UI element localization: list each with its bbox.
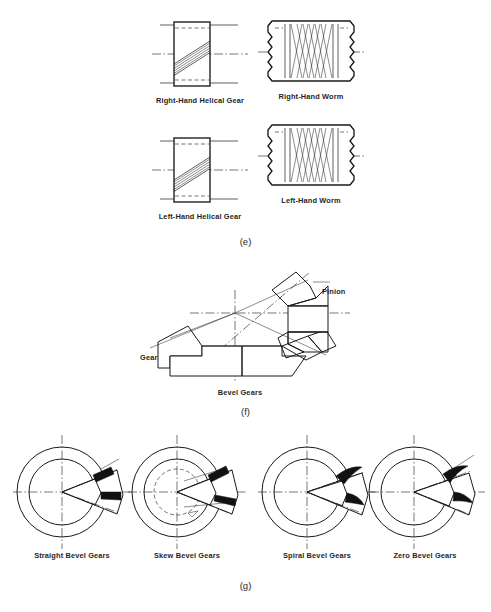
figure-left-hand-worm: Left-Hand Worm <box>258 116 364 190</box>
helical-gear-left-icon <box>150 128 250 208</box>
figure-skew-bevel-gears: Skew Bevel Gears <box>128 433 246 545</box>
figure-right-hand-worm: Right-Hand Worm <box>258 12 364 86</box>
caption-zero-bevel-gears: Zero Bevel Gears <box>362 551 488 560</box>
caption-bevel-gears: Bevel Gears <box>185 388 295 397</box>
figure-spiral-bevel-gears: Spiral Bevel Gears <box>258 433 376 545</box>
skew-bevel-gear-icon <box>128 433 246 545</box>
bevel-gear-assembly-icon <box>130 260 380 385</box>
caption-left-hand-helical-gear: Left-Hand Helical Gear <box>134 212 266 221</box>
zero-bevel-gear-icon <box>370 433 488 545</box>
figure-label-e: (e) <box>0 236 491 247</box>
worm-left-icon <box>258 116 364 190</box>
caption-pinion: Pinion <box>322 287 345 296</box>
gear-illustration-page: Right-Hand Helical Gear <box>0 0 491 612</box>
caption-gear: Gear <box>140 353 157 362</box>
panel-bevel-gear-section: Pinion Gear Bevel Gears (f) <box>0 255 491 425</box>
figure-label-g: (g) <box>0 580 491 591</box>
straight-bevel-gear-icon <box>13 433 131 545</box>
caption-right-hand-worm: Right-Hand Worm <box>248 92 374 101</box>
figure-bevel-gears-assembly: Pinion Gear Bevel Gears <box>130 260 380 385</box>
panel-bevel-tooth-forms: Straight Bevel Gears Skew Bevel Gears <box>0 425 491 612</box>
caption-left-hand-worm: Left-Hand Worm <box>248 196 374 205</box>
figure-right-hand-helical-gear: Right-Hand Helical Gear <box>150 12 250 92</box>
helical-gear-right-icon <box>150 12 250 92</box>
caption-right-hand-helical-gear: Right-Hand Helical Gear <box>134 96 266 105</box>
figure-left-hand-helical-gear: Left-Hand Helical Gear <box>150 128 250 208</box>
worm-right-icon <box>258 12 364 86</box>
caption-skew-bevel-gears: Skew Bevel Gears <box>125 551 249 560</box>
figure-straight-bevel-gears: Straight Bevel Gears <box>13 433 131 545</box>
caption-straight-bevel-gears: Straight Bevel Gears <box>7 551 137 560</box>
spiral-bevel-gear-icon <box>258 433 376 545</box>
figure-zero-bevel-gears: Zero Bevel Gears <box>370 433 488 545</box>
panel-helical-and-worm: Right-Hand Helical Gear <box>0 0 491 255</box>
figure-label-f: (f) <box>0 406 491 417</box>
